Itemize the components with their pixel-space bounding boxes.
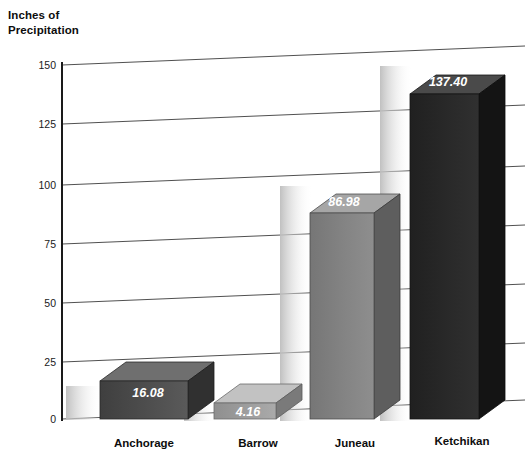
bar-value-label: 86.98 <box>328 195 359 209</box>
y-tick-label: 50 <box>44 297 56 309</box>
bar-side-face <box>374 194 400 419</box>
y-tick-label: 125 <box>38 118 56 130</box>
x-axis-labels: Anchorage Barrow Juneau Ketchikan <box>114 435 490 449</box>
y-tick-label: 25 <box>44 356 56 368</box>
bar-juneau[interactable]: 86.98 <box>310 194 400 419</box>
y-tick-label: 150 <box>38 59 56 71</box>
y-tick-label: 100 <box>38 179 56 191</box>
bar-ketchikan[interactable]: 137.40 <box>410 75 505 419</box>
bar-anchorage[interactable]: 16.08 <box>100 362 214 419</box>
y-tick-labels: 150 125 100 75 50 25 0 <box>38 59 56 425</box>
bar-value-label: 16.08 <box>132 386 163 400</box>
y-tick-label: 75 <box>44 238 56 250</box>
chart-canvas: 150 125 100 75 50 25 0 16.08 4.16 <box>0 0 532 467</box>
bar-side-face <box>479 75 505 419</box>
bar-front-face <box>410 94 479 419</box>
y-tick-label: 0 <box>50 413 56 425</box>
category-label-juneau: Juneau <box>335 437 375 449</box>
category-label-ketchikan: Ketchikan <box>435 435 490 447</box>
bar-value-label: 4.16 <box>235 405 261 419</box>
category-label-barrow: Barrow <box>238 437 278 449</box>
category-label-anchorage: Anchorage <box>114 437 174 449</box>
bar-front-face <box>310 213 374 419</box>
bar-value-label: 137.40 <box>429 75 467 89</box>
gridline-150 <box>62 46 525 65</box>
bar-chart: Inches of Precipitation <box>0 0 532 467</box>
